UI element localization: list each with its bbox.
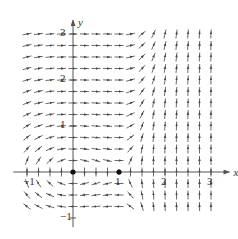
direction-arrow	[80, 195, 89, 196]
direction-arrow	[23, 101, 31, 104]
direction-arrow	[57, 103, 66, 104]
direction-arrow	[164, 64, 166, 73]
direction-arrow	[24, 192, 30, 199]
direction-arrow	[152, 53, 155, 61]
direction-arrow	[127, 124, 135, 128]
direction-arrow	[142, 156, 143, 165]
x-tick-label: 3	[207, 175, 213, 187]
direction-arrow	[36, 157, 41, 165]
direction-arrow	[34, 91, 43, 93]
direction-arrow	[46, 68, 55, 69]
direction-arrow	[46, 91, 55, 92]
direction-arrow	[46, 125, 55, 127]
direction-arrow	[103, 206, 112, 207]
direction-arrow	[25, 156, 28, 164]
direction-arrow	[35, 135, 43, 139]
direction-arrow	[46, 34, 55, 35]
direction-arrow	[199, 30, 200, 39]
direction-arrow	[34, 56, 43, 57]
axis-ticks: −1123−1123	[23, 26, 213, 222]
direction-arrow	[47, 158, 54, 164]
x-tick-label: 1	[115, 175, 121, 187]
direction-arrow	[126, 45, 135, 47]
direction-arrow	[103, 137, 112, 138]
direction-arrow	[34, 33, 43, 34]
direction-arrow	[127, 135, 134, 140]
direction-arrow	[165, 122, 166, 131]
direction-arrow	[92, 126, 101, 127]
direction-arrow	[57, 159, 65, 162]
direction-arrow	[126, 79, 135, 81]
direction-arrow	[46, 45, 55, 46]
direction-arrow	[141, 145, 143, 154]
direction-arrow	[126, 113, 134, 117]
direction-arrow	[153, 145, 154, 154]
equilibrium-point-center	[70, 169, 75, 174]
x-tick-label: −1	[23, 175, 35, 187]
direction-arrow	[34, 68, 43, 70]
direction-arrow	[127, 204, 134, 209]
direction-arrow	[34, 102, 43, 104]
direction-arrow	[35, 204, 43, 208]
direction-arrow	[34, 124, 42, 127]
equilibrium-point-saddle	[116, 169, 121, 174]
direction-arrow	[153, 110, 155, 119]
direction-arrow	[152, 30, 156, 38]
direction-arrow	[176, 30, 177, 39]
direction-arrow	[46, 57, 55, 58]
direction-arrow	[103, 195, 112, 196]
direction-arrow	[140, 99, 145, 107]
direction-arrow	[140, 122, 143, 130]
direction-arrow	[139, 43, 146, 49]
direction-arrow	[80, 126, 89, 127]
y-axis-label: y	[77, 16, 83, 28]
direction-arrow	[176, 41, 177, 50]
direction-arrow	[152, 41, 156, 49]
direction-arrow	[103, 183, 112, 185]
axes: x y −1123−1123	[13, 16, 238, 227]
direction-arrow	[24, 135, 31, 141]
direction-arrow	[23, 113, 31, 117]
direction-arrow	[153, 191, 154, 200]
direction-arrow	[165, 133, 166, 142]
direction-arrow	[103, 160, 112, 162]
direction-arrow	[35, 146, 42, 152]
direction-arrow	[24, 146, 30, 153]
direction-arrow	[153, 202, 154, 211]
direction-arrow	[164, 87, 165, 96]
direction-arrow	[36, 180, 41, 188]
direction-arrow	[141, 202, 144, 211]
direction-arrow	[176, 53, 177, 62]
direction-arrow	[92, 148, 101, 149]
direction-arrow	[176, 76, 177, 85]
direction-arrow	[92, 114, 101, 115]
direction-arrow	[57, 137, 66, 138]
direction-arrow	[165, 202, 166, 211]
direction-arrow	[188, 53, 189, 62]
direction-arrow	[23, 33, 32, 35]
direction-arrow	[126, 101, 134, 104]
direction-arrow	[128, 192, 134, 199]
direction-arrow	[57, 206, 66, 207]
direction-arrow	[23, 124, 31, 129]
direction-arrow	[103, 126, 112, 127]
direction-arrow	[126, 56, 135, 58]
direction-arrow	[164, 53, 166, 62]
direction-arrow	[35, 192, 42, 198]
direction-arrow	[139, 88, 144, 95]
direction-arrow	[139, 65, 145, 72]
direction-arrow	[47, 181, 54, 187]
direction-arrow	[23, 45, 32, 47]
direction-arrow	[23, 79, 32, 82]
direction-arrow	[176, 87, 177, 96]
direction-arrow	[188, 64, 189, 73]
direction-arrow	[129, 179, 133, 187]
direction-arrow	[24, 204, 31, 210]
direction-arrow	[153, 99, 155, 108]
direction-arrow	[34, 45, 43, 46]
y-tick-label: −1	[60, 210, 72, 222]
direction-arrow	[164, 76, 165, 85]
direction-arrow	[23, 56, 32, 58]
direction-field-plot: x y −1123−1123	[0, 0, 238, 239]
direction-arrow	[153, 133, 154, 142]
